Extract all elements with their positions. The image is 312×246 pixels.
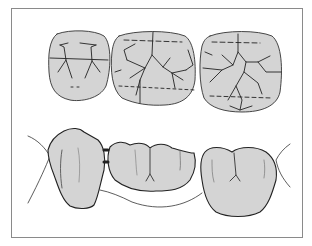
occlusal-tooth-premolar bbox=[49, 31, 110, 101]
occlusal-tooth-pontic bbox=[111, 32, 195, 106]
right-gingiva-line bbox=[276, 144, 290, 187]
occlusal-tooth-molar bbox=[200, 32, 282, 113]
buccal-tooth-pontic bbox=[104, 142, 195, 191]
pontic-ridge-line bbox=[100, 190, 202, 207]
dental-bridge-illustration bbox=[0, 0, 312, 246]
buccal-view bbox=[28, 128, 290, 216]
left-gingiva-line bbox=[28, 136, 50, 203]
buccal-tooth-premolar bbox=[48, 128, 105, 208]
buccal-tooth-molar bbox=[201, 148, 277, 217]
occlusal-view bbox=[49, 31, 282, 112]
